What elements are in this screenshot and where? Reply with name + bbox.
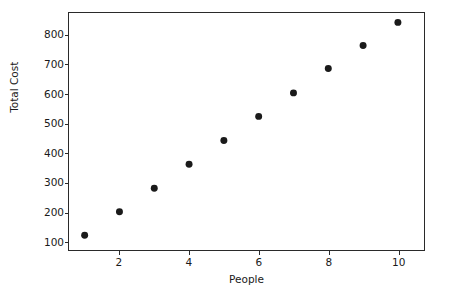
data-point (186, 161, 193, 168)
data-point (255, 113, 262, 120)
data-point (151, 185, 158, 192)
data-point (290, 89, 297, 96)
data-point (81, 232, 88, 239)
x-tick-mark (399, 251, 400, 255)
x-tick-label: 10 (379, 257, 419, 268)
data-point (394, 19, 401, 26)
x-tick-mark (329, 251, 330, 255)
y-tick-mark (65, 124, 69, 125)
y-tick-mark (65, 242, 69, 243)
x-tick-label: 8 (309, 257, 349, 268)
y-tick-label: 100 (4, 237, 64, 248)
y-tick-mark (65, 183, 69, 184)
y-tick-label: 300 (4, 177, 64, 188)
x-tick-mark (119, 251, 120, 255)
y-tick-mark (65, 64, 69, 65)
data-point (360, 42, 367, 49)
y-tick-mark (65, 35, 69, 36)
scatter-chart-figure: 100200300400500600700800 246810 People T… (0, 0, 449, 297)
data-point (325, 65, 332, 72)
data-point (220, 137, 227, 144)
plot-axes-frame (68, 12, 425, 251)
x-tick-mark (189, 251, 190, 255)
y-axis-label: Total Cost (9, 37, 20, 137)
x-tick-label: 4 (169, 257, 209, 268)
y-tick-mark (65, 213, 69, 214)
x-tick-label: 2 (99, 257, 139, 268)
x-axis-label: People (68, 274, 425, 285)
y-tick-label: 200 (4, 207, 64, 218)
x-tick-mark (259, 251, 260, 255)
y-tick-mark (65, 153, 69, 154)
y-tick-label: 400 (4, 148, 64, 159)
y-tick-mark (65, 94, 69, 95)
x-tick-label: 6 (239, 257, 279, 268)
data-point (116, 208, 123, 215)
data-points-layer (69, 13, 424, 250)
